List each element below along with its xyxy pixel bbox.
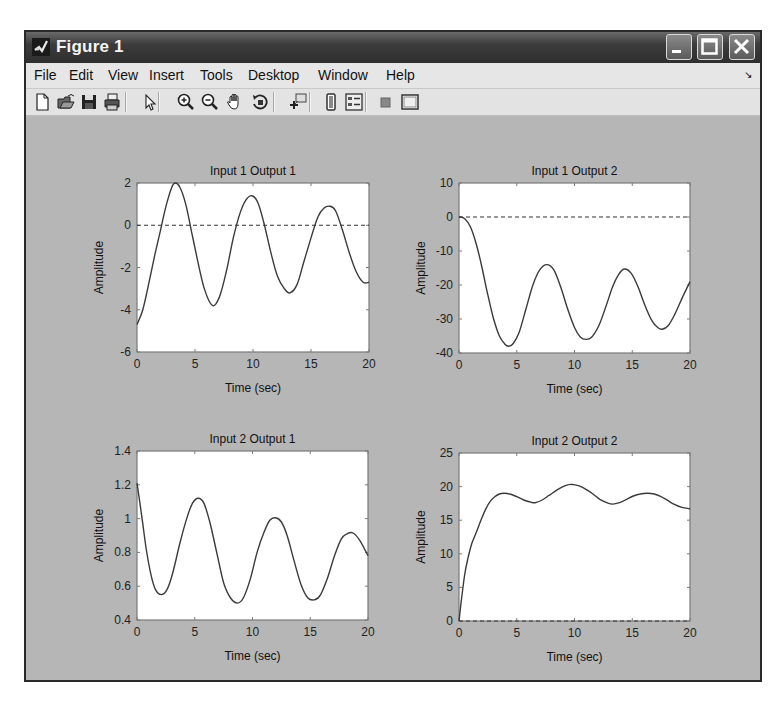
x-tick-label: 5 [192, 357, 199, 371]
y-axis-label: Amplitude [414, 510, 428, 564]
subplot-title: Input 2 Output 2 [531, 434, 617, 448]
y-tick-label: -30 [436, 312, 454, 326]
subplot-4[interactable]: 051015200510152025Input 2 Output 2Time (… [414, 434, 697, 664]
y-tick-label: 0.4 [114, 613, 131, 627]
y-tick-label: 0.8 [114, 545, 131, 559]
y-axis-label: Amplitude [414, 241, 428, 295]
x-tick-label: 0 [134, 357, 141, 371]
x-tick-label: 10 [246, 357, 260, 371]
subplot-1[interactable]: 05101520-6-4-202Input 1 Output 1Time (se… [92, 164, 376, 395]
x-axis-label: Time (sec) [224, 649, 280, 663]
y-tick-label: 20 [440, 480, 454, 494]
y-tick-label: 10 [440, 176, 454, 190]
subplot-2[interactable]: 05101520-40-30-20-10010Input 1 Output 2T… [414, 164, 697, 396]
y-tick-label: -6 [120, 345, 131, 359]
y-tick-label: 0 [446, 210, 453, 224]
x-tick-label: 20 [362, 357, 376, 371]
x-tick-label: 5 [191, 625, 198, 639]
x-tick-label: 0 [134, 625, 141, 639]
x-axis-label: Time (sec) [225, 381, 281, 395]
x-tick-label: 0 [456, 358, 463, 372]
x-tick-label: 5 [513, 358, 520, 372]
y-tick-label: 25 [440, 446, 454, 460]
x-tick-label: 5 [513, 626, 520, 640]
axes-box [137, 451, 368, 620]
x-tick-label: 10 [568, 358, 582, 372]
x-tick-label: 15 [304, 625, 318, 639]
x-tick-label: 20 [683, 626, 697, 640]
x-tick-label: 15 [304, 357, 318, 371]
x-axis-label: Time (sec) [546, 650, 602, 664]
x-tick-label: 10 [246, 625, 260, 639]
y-tick-label: 15 [440, 513, 454, 527]
y-axis-label: Amplitude [92, 509, 106, 563]
y-tick-label: 1 [124, 512, 131, 526]
x-axis-label: Time (sec) [546, 382, 602, 396]
axes-box [459, 453, 690, 621]
y-tick-label: 0 [124, 218, 131, 232]
x-tick-label: 20 [683, 358, 697, 372]
y-tick-label: 0 [446, 614, 453, 628]
figure-plot-area: 05101520-6-4-202Input 1 Output 1Time (se… [0, 0, 784, 710]
y-tick-label: -20 [436, 278, 454, 292]
y-tick-label: 1.2 [114, 478, 131, 492]
x-tick-label: 15 [626, 626, 640, 640]
x-tick-label: 15 [626, 358, 640, 372]
y-tick-label: -2 [120, 261, 131, 275]
subplot-3[interactable]: 051015200.40.60.811.21.4Input 2 Output 1… [92, 432, 375, 663]
y-tick-label: 0.6 [114, 579, 131, 593]
y-tick-label: 2 [124, 176, 131, 190]
subplot-title: Input 2 Output 1 [209, 432, 295, 446]
y-tick-label: 10 [440, 547, 454, 561]
y-tick-label: -10 [436, 244, 454, 258]
y-tick-label: 1.4 [114, 444, 131, 458]
y-tick-label: 5 [446, 580, 453, 594]
subplot-title: Input 1 Output 2 [531, 164, 617, 178]
x-tick-label: 0 [456, 626, 463, 640]
y-tick-label: -40 [436, 346, 454, 360]
y-tick-label: -4 [120, 303, 131, 317]
subplot-title: Input 1 Output 1 [210, 164, 296, 178]
x-tick-label: 20 [361, 625, 375, 639]
y-axis-label: Amplitude [92, 241, 106, 295]
x-tick-label: 10 [568, 626, 582, 640]
